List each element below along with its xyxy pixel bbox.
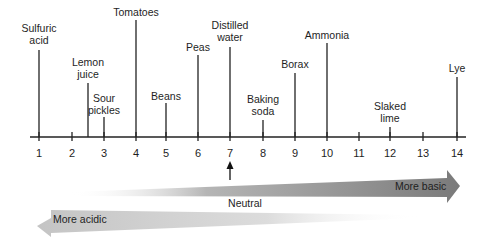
ph-tick-label: 9 xyxy=(292,147,298,159)
substance-label: Baking soda xyxy=(247,93,279,117)
ph-tick-label: 6 xyxy=(195,147,201,159)
ph-tick-label: 14 xyxy=(451,147,463,159)
substance-label: Sulfuric acid xyxy=(21,22,56,46)
ph-tick-label: 8 xyxy=(260,147,266,159)
ph-tick-label: 3 xyxy=(101,147,107,159)
substance-label: Lye xyxy=(449,62,466,74)
ph-tick-label: 11 xyxy=(353,147,364,159)
ph-tick-label: 12 xyxy=(384,147,396,159)
ph-tick-label: 7 xyxy=(227,147,233,159)
substance-label: Beans xyxy=(151,90,181,102)
substance-label: Tomatoes xyxy=(113,6,159,18)
ph-tick-label: 13 xyxy=(417,147,429,159)
substance-label: Sour pickles xyxy=(88,92,120,116)
more-basic-label: More basic xyxy=(395,180,446,192)
substance-label: Borax xyxy=(281,58,308,70)
ph-tick-label: 10 xyxy=(321,147,333,159)
substance-label: Peas xyxy=(186,41,210,53)
ph-tick-label: 4 xyxy=(133,147,139,159)
ph-tick-label: 1 xyxy=(36,147,42,159)
substance-label: Distilled water xyxy=(212,19,249,43)
substance-label: Ammonia xyxy=(305,29,349,41)
substance-label: Lemon juice xyxy=(72,56,104,80)
ph-tick-label: 5 xyxy=(163,147,169,159)
neutral-label: Neutral xyxy=(228,197,262,209)
more-acidic-label: More acidic xyxy=(53,213,107,225)
neutral-pointer-icon xyxy=(227,161,234,180)
ph-scale-diagram: Sulfuric acidLemon juiceSour picklesToma… xyxy=(0,0,492,243)
substance-label: Slaked lime xyxy=(374,100,406,124)
ph-axis xyxy=(30,132,466,141)
ph-tick-label: 2 xyxy=(69,147,75,159)
